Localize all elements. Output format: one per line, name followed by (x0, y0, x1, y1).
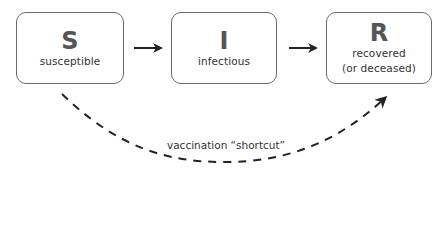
edge-label-vaccination: vaccination “shortcut” (0, 139, 448, 151)
edge-s-to-r-dashed-arrow (62, 94, 385, 162)
